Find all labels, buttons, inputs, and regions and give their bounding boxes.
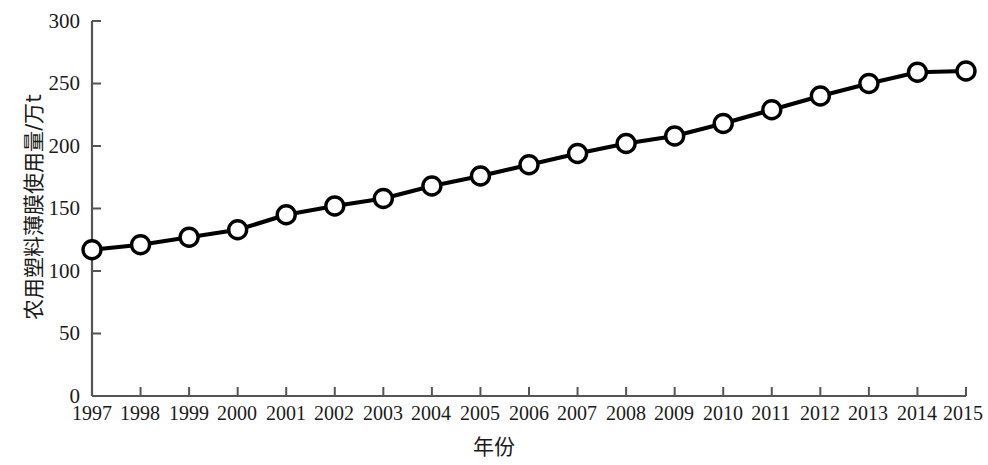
x-tick-marks: [92, 387, 966, 396]
data-point-marker: [520, 156, 538, 174]
data-point-marker: [423, 177, 441, 195]
data-point-marker: [714, 115, 732, 133]
y-tick-marks: [92, 21, 101, 396]
plot-area: [0, 0, 988, 465]
data-point-marker: [957, 62, 975, 80]
data-point-marker: [860, 75, 878, 93]
data-point-marker: [569, 145, 587, 163]
data-point-marker: [471, 167, 489, 185]
data-point-marker: [277, 206, 295, 224]
data-point-marker: [229, 221, 247, 239]
data-point-marker: [811, 87, 829, 105]
data-point-marker: [132, 236, 150, 254]
chart-container: 农用塑料薄膜使用量/万t 年份 300 250 200 150 100 50 0…: [0, 0, 988, 465]
data-point-marker: [180, 228, 198, 246]
data-point-marker: [617, 135, 635, 153]
data-point-marker: [83, 241, 101, 259]
data-point-marker: [666, 127, 684, 145]
data-point-marker: [326, 197, 344, 215]
data-point-marker: [374, 190, 392, 208]
axis-lines: [92, 21, 966, 396]
data-point-marker: [763, 101, 781, 119]
data-point-marker: [908, 63, 926, 81]
